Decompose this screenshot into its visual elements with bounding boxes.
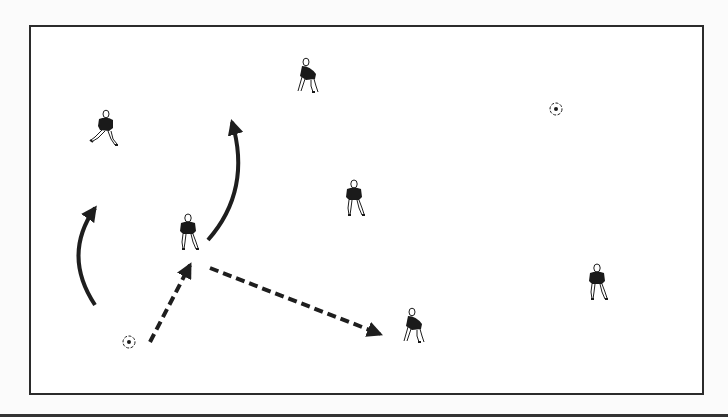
run-arrow [79, 208, 96, 305]
run-arrow [208, 122, 238, 240]
pass-arrow [150, 265, 190, 342]
soccer-ball-icon [123, 336, 135, 348]
player-icon [298, 58, 318, 92]
diagram-overlay [0, 0, 728, 417]
soccer-ball-icon [550, 103, 562, 115]
player-icon [90, 110, 118, 145]
pass-arrow [210, 268, 380, 334]
player-icon [404, 308, 424, 342]
player-icon [180, 214, 199, 249]
player-icon [589, 264, 608, 299]
player-icon [346, 180, 365, 215]
drill-diagram [0, 0, 728, 417]
